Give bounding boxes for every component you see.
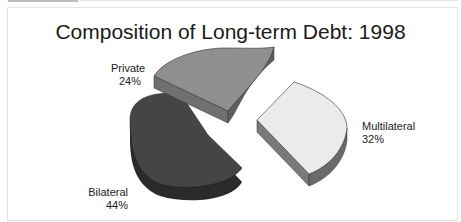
label-private: Private 24% [111, 62, 141, 88]
slice-multilateral [257, 82, 347, 186]
label-bilateral: Bilateral 44% [82, 186, 128, 212]
label-multilateral: Multilateral 32% [362, 120, 415, 146]
pie-chart [0, 0, 461, 222]
